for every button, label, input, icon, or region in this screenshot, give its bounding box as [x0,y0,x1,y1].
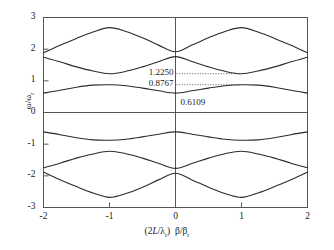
zero-axis-lines [44,18,308,208]
figure-container: ω/ωr (2L/λr) β/βr 3210-1-2-3 -2-1012 1.2… [0,0,334,250]
x-label-beta-subscript: r [187,231,189,238]
x-tick-label-1: 1 [230,211,254,221]
annotation-label-0.8767: 0.8767 [130,78,174,88]
annotation-label-1.2250: 1.2250 [130,67,174,77]
annotation-label-0.6109: 0.6109 [181,97,206,107]
y-tick-label-neg2: -2 [14,169,36,179]
y-tick-label-neg1: -1 [14,138,36,148]
y-tick-label-2: 2 [14,43,36,53]
y-tick-label-3: 3 [14,11,36,21]
x-tick-label-neg1: -1 [98,211,122,221]
x-label-paren-close: ) [167,226,170,236]
x-tick-label-0: 0 [164,211,188,221]
y-axis-label-subscript: r [28,93,35,95]
y-tick-label-0: 0 [14,106,36,116]
x-tick-label-2: 2 [296,211,320,221]
x-axis-label: (2L/λr) β/βr [0,226,334,238]
y-tick-label-1: 1 [14,74,36,84]
annotation-leader-lines [177,74,242,85]
x-tick-label-neg2: -2 [32,211,56,221]
y-tick-label-neg3: -3 [14,201,36,211]
